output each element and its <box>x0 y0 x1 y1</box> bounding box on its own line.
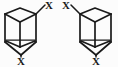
chemical-figure: X X X X <box>0 0 118 67</box>
right-front-top-wedge <box>80 14 111 22</box>
right-structure-group: X X <box>0 0 118 67</box>
right-top-substituent-bond <box>71 5 80 14</box>
right-top-edges <box>80 8 111 14</box>
right-bottom-substituent-label: X <box>92 55 100 67</box>
right-top-substituent-label: X <box>62 0 70 11</box>
right-cage-skeleton <box>80 8 111 55</box>
